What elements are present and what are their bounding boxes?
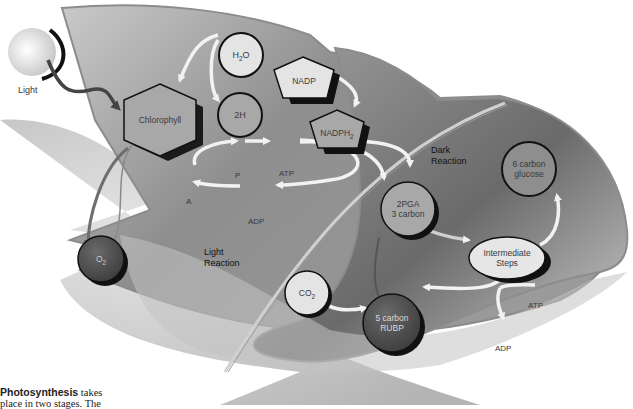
co2-label: CO: [299, 288, 312, 298]
dark-adp-label: ADP: [495, 344, 511, 353]
cycle-label-a: A: [186, 197, 192, 206]
caption-title: Photosynthesis: [0, 386, 78, 398]
light-source: Light: [8, 28, 63, 95]
figure-caption: Photosynthesis takes place in two stages…: [0, 387, 102, 409]
nadph2-label: NADPH: [320, 128, 350, 138]
svg-text:6 carbonglucose: 6 carbonglucose: [512, 159, 545, 179]
intermediate-label-2: Steps: [496, 258, 518, 268]
caption-line1: takes: [78, 387, 102, 398]
light-label: Light: [18, 85, 38, 95]
glucose-label-1: 6 carbon: [512, 159, 545, 169]
cycle-label-atp: ATP: [279, 169, 294, 178]
dark-atp-label: ATP: [528, 301, 543, 310]
rubp-label-1: 5 carbon: [375, 313, 408, 323]
caption-line2: place in two stages. The: [0, 398, 102, 409]
svg-text:5 carbonRUBP: 5 carbonRUBP: [375, 313, 408, 333]
cycle-label-adp: ADP: [248, 217, 264, 226]
pga-label-1: 2PGA: [397, 199, 420, 209]
two-h-label: 2H: [234, 110, 246, 120]
rubp-label-2: RUBP: [380, 323, 404, 333]
pga-label-2: 3 carbon: [391, 209, 424, 219]
glucose-node: 6 carbonglucose: [502, 142, 556, 196]
h2o-node: H2O: [219, 33, 263, 77]
two-h-node: 2H: [218, 93, 262, 137]
nadp-label: NADP: [292, 76, 316, 86]
cycle-label-p: P: [235, 171, 240, 180]
intermediate-label-1: Intermediate: [483, 248, 531, 258]
glucose-label-2: glucose: [514, 169, 544, 179]
chlorophyll-label: Chlorophyll: [139, 115, 182, 125]
